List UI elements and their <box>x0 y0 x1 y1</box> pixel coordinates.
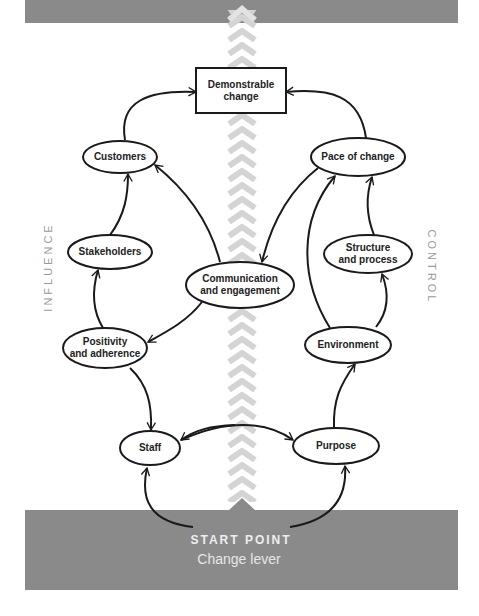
edge-pace-demonstrable <box>286 91 366 138</box>
label-line: and adherence <box>70 348 141 360</box>
label-customers: Customers <box>94 151 146 163</box>
start-point-subtitle: Change lever <box>197 551 280 567</box>
label-positivity: Positivity and adherence <box>70 336 141 360</box>
edge-positivity-staff <box>130 368 151 430</box>
label-line: and process <box>339 254 398 266</box>
edge-start-staff <box>145 468 193 527</box>
edge-customers-demonstrable <box>124 92 196 140</box>
edge-stakeholders-customers <box>110 174 128 235</box>
edge-structure-pace <box>368 177 374 235</box>
edge-communication-customers <box>155 165 220 262</box>
edge-communication-positivity <box>148 302 202 342</box>
edge-positivity-stakeholders <box>94 270 103 328</box>
label-structure: Structure and process <box>339 242 398 266</box>
start-point-title: START POINT <box>190 533 291 547</box>
label-staff: Staff <box>139 442 161 454</box>
label-line: Structure <box>339 242 398 254</box>
edge-purpose-staff <box>181 425 235 440</box>
label-line: and engagement <box>200 285 279 297</box>
edge-start-purpose <box>290 466 345 527</box>
influence-label: INFLUENCE <box>42 222 54 311</box>
label-stakeholders: Stakeholders <box>79 246 142 258</box>
label-line: change <box>208 91 275 103</box>
label-environment: Environment <box>317 339 378 351</box>
label-communication: Communication and engagement <box>200 273 279 297</box>
edge-pace-communication <box>262 168 318 262</box>
label-purpose: Purpose <box>316 440 356 452</box>
label-line: Demonstrable <box>208 79 275 91</box>
edge-purpose-environment <box>334 364 355 428</box>
label-line: Positivity <box>70 336 141 348</box>
label-pace-of-change: Pace of change <box>321 151 394 163</box>
label-line: Communication <box>200 273 279 285</box>
control-label: CONTROL <box>426 230 438 305</box>
label-demonstrable-change: Demonstrable change <box>208 79 275 103</box>
edge-environment-structure <box>376 274 387 327</box>
